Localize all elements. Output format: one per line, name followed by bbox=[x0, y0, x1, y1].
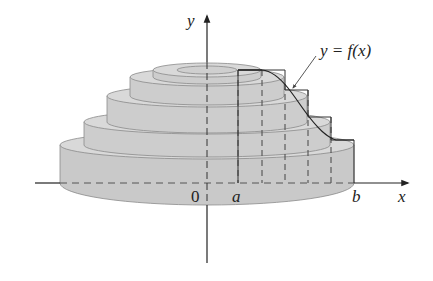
curve-pointer bbox=[293, 56, 316, 88]
curve-label: y = f(x) bbox=[320, 42, 371, 59]
x-axis-label: x bbox=[398, 188, 406, 205]
origin-label: 0 bbox=[191, 188, 200, 205]
y-axis-label: y bbox=[187, 12, 195, 29]
b-label: b bbox=[352, 188, 361, 205]
a-label: a bbox=[232, 188, 241, 205]
